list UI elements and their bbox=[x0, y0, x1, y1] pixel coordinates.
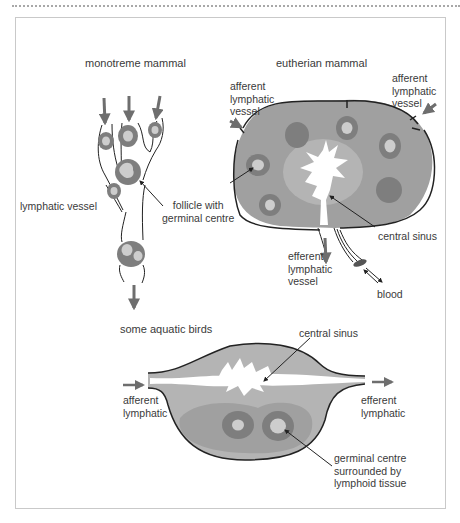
label-afferent-bird: afferent lymphatic bbox=[123, 394, 167, 419]
label-efferent-bird: efferent lymphatic bbox=[361, 394, 405, 419]
label-follicle: follicle with germinal centre bbox=[162, 199, 234, 224]
label-germinal-bird: germinal centre surrounded by lymphoid t… bbox=[334, 452, 406, 490]
monotreme-lymphatic-plexus bbox=[98, 96, 163, 308]
label-afferent-left: afferent lymphatic vessel bbox=[230, 80, 274, 118]
label-central-sinus: central sinus bbox=[378, 230, 437, 243]
arrow-in-3-icon bbox=[156, 96, 160, 118]
afferent-left-arrow-icon bbox=[230, 121, 241, 127]
heading-aquatic-birds: some aquatic birds bbox=[120, 323, 212, 336]
arrow-in-1-icon bbox=[104, 98, 105, 123]
label-central-sinus-bird: central sinus bbox=[299, 327, 358, 340]
label-blood: blood bbox=[377, 288, 403, 301]
heading-monotreme: monotreme mammal bbox=[85, 57, 186, 70]
heading-eutherian: eutherian mammal bbox=[276, 57, 367, 70]
lymph-node-diagram bbox=[0, 0, 460, 523]
label-afferent-right: afferent lymphatic vessel bbox=[392, 72, 436, 110]
label-efferent: efferent lymphatic vessel bbox=[288, 250, 332, 288]
eutherian-lymph-node bbox=[230, 100, 436, 283]
label-lymphatic-vessel: lymphatic vessel bbox=[20, 200, 97, 213]
